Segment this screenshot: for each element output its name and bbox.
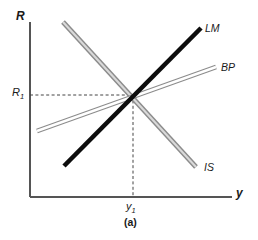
x-axis-label: y xyxy=(236,187,243,199)
rate-tick-subscript: 1 xyxy=(20,92,24,101)
is-lm-bp-figure: R y R1 y1 LM BP IS (a) xyxy=(0,0,258,240)
lm-curve-label: LM xyxy=(205,23,220,34)
rate-tick-base: R xyxy=(12,86,20,98)
y-axis-label: R xyxy=(16,10,25,22)
bp-curve xyxy=(37,67,216,131)
bp-curve-label: BP xyxy=(221,62,235,73)
income-tick-label: y1 xyxy=(126,201,136,215)
is-curve-label: IS xyxy=(204,162,214,173)
figure-caption: (a) xyxy=(124,217,137,228)
rate-tick-label: R1 xyxy=(12,87,24,101)
income-tick-subscript: 1 xyxy=(132,206,136,215)
